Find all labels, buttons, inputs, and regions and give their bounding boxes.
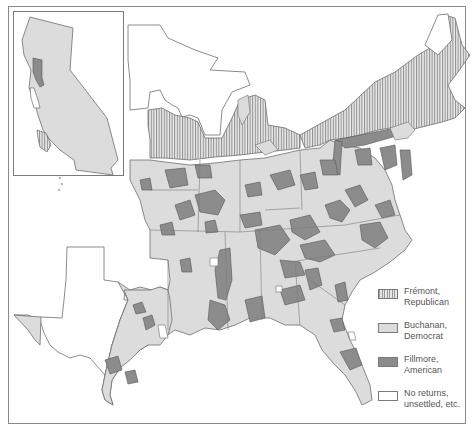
legend-label-no-returns: No returns, unsettled, etc. [404, 388, 460, 409]
no-returns-swatch-icon [378, 391, 398, 401]
legend-item-no-returns: No returns, unsettled, etc. [378, 388, 470, 422]
legend-item-republican: Frémont, Republican [378, 286, 470, 320]
legend-label-democrat: Buchanan, Democrat [404, 320, 447, 341]
legend: Frémont, Republican Buchanan, Democrat F… [378, 286, 470, 422]
american-swatch-icon [378, 357, 398, 367]
legend-item-american: Fillmore, American [378, 354, 470, 388]
legend-label-republican: Frémont, Republican [404, 286, 449, 307]
democrat-swatch-icon [378, 323, 398, 333]
legend-item-democrat: Buchanan, Democrat [378, 320, 470, 354]
california-inset-frame [13, 11, 124, 176]
republican-swatch-icon [378, 289, 398, 299]
legend-label-american: Fillmore, American [404, 354, 442, 375]
new-mexico-strip-democrat [14, 315, 41, 345]
